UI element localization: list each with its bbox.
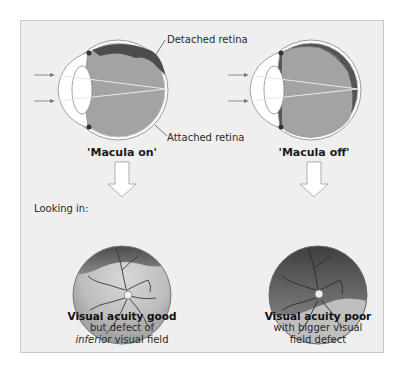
down-arrow-left [108, 162, 136, 197]
caption-line: but defect of [90, 322, 154, 333]
caption-line: field defect [290, 334, 346, 345]
eye-macula-off [228, 40, 361, 140]
eye-macula-on [34, 40, 168, 140]
label-detached-retina: Detached retina [167, 34, 248, 45]
label-attached-retina: Attached retina [167, 132, 244, 143]
caption-italic: inferior [75, 334, 111, 345]
caption-bold: Visual acuity good [52, 310, 192, 322]
caption-macula-off: Visual acuity poor with bigger visual fi… [248, 310, 388, 346]
title-macula-off: 'Macula off' [264, 146, 364, 159]
caption-bold: Visual acuity poor [248, 310, 388, 322]
caption-line: with bigger visual [274, 322, 363, 333]
caption-macula-on: Visual acuity good but defect of inferio… [52, 310, 192, 346]
caption-line: visual field [111, 334, 168, 345]
title-macula-on: 'Macula on' [72, 146, 172, 159]
down-arrow-right [300, 162, 328, 197]
label-looking-in: Looking in: [34, 203, 89, 214]
